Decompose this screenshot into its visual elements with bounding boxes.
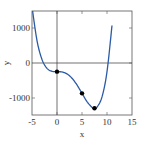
data-point bbox=[55, 69, 59, 73]
data-points bbox=[55, 69, 97, 110]
x-axis-label: x bbox=[80, 129, 85, 139]
y-tick-label: 1000 bbox=[12, 23, 31, 33]
x-tick-label: 10 bbox=[103, 117, 113, 127]
x-tick-label: 15 bbox=[128, 117, 138, 127]
chart: -5 0 5 10 15 1000 0 -1000 x y bbox=[0, 0, 145, 146]
x-tick-label: 0 bbox=[55, 117, 60, 127]
data-point bbox=[92, 106, 96, 110]
data-curve bbox=[32, 7, 112, 109]
x-tick-label: 5 bbox=[80, 117, 85, 127]
y-tick-label: -1000 bbox=[9, 93, 30, 103]
data-point bbox=[80, 91, 84, 95]
x-tick-label: -5 bbox=[28, 117, 36, 127]
y-axis-label: y bbox=[1, 60, 11, 65]
y-tick-label: 0 bbox=[26, 58, 31, 68]
